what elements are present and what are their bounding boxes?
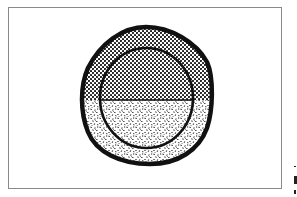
edge-mark xyxy=(294,176,297,184)
edge-mark xyxy=(294,190,296,194)
cell-diagram xyxy=(0,0,297,197)
edge-mark xyxy=(294,166,296,167)
inner-body xyxy=(100,48,193,148)
